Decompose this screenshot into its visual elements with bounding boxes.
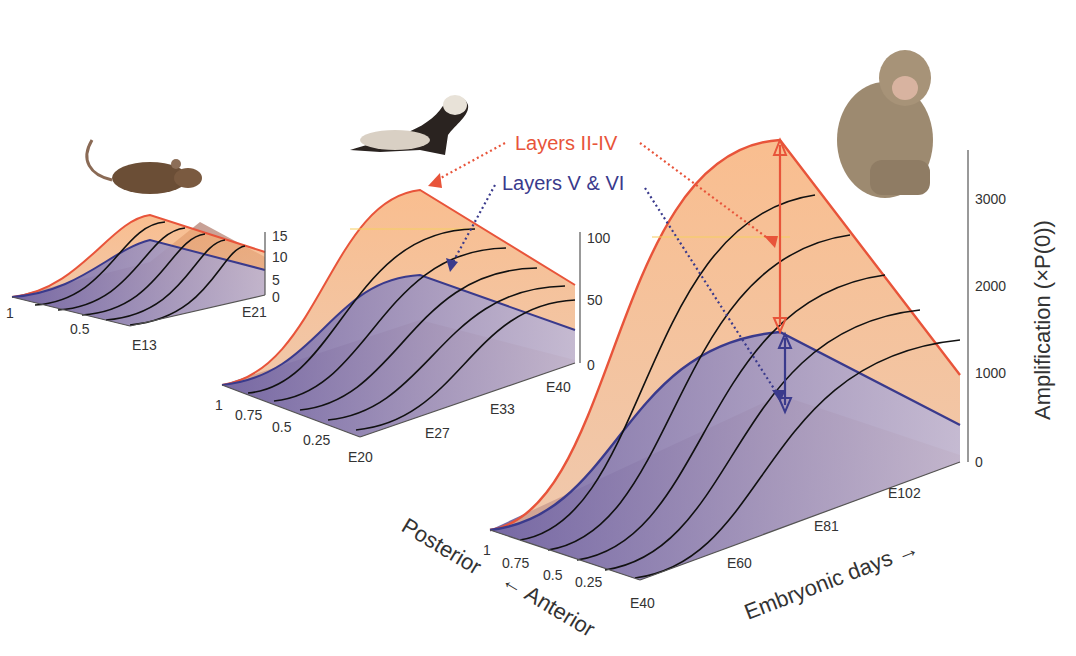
macaque-z-tick: 1000 [975, 365, 1006, 381]
annotation-layers-v-vi: Layers V & VI [502, 172, 624, 194]
ferret-z-tick: 0 [587, 357, 595, 373]
x-axis-label: Embryonic days → [741, 535, 922, 625]
macaque-ap-tick: 0.75 [502, 555, 529, 571]
y-axis-label: Amplification (×P(0)) [1030, 220, 1055, 420]
posterior-label: Posterior [397, 513, 485, 580]
ferret-x-tick: E33 [490, 401, 515, 417]
rat-z-tick: 10 [272, 249, 288, 265]
macaque-z-tick: 3000 [975, 191, 1006, 207]
macaque-x-tick: E81 [814, 518, 839, 534]
ferret-x-tick: E40 [546, 379, 571, 395]
macaque-icon [837, 50, 933, 198]
rat-ap-tick: 1 [6, 305, 14, 321]
rat-chart: 1 0.5 E13 E21 0 5 10 15 [6, 215, 288, 353]
annotation-layers-ii-iv: Layers II-IV [515, 132, 618, 154]
macaque-x-tick: E60 [727, 555, 752, 571]
ferret-ap-tick: 1 [215, 397, 223, 413]
rat-z-tick: 5 [272, 272, 280, 288]
macaque-x-tick: E102 [888, 485, 921, 501]
macaque-x-tick: E40 [630, 595, 655, 611]
rat-z-tick: 15 [272, 228, 288, 244]
ferret-icon [350, 95, 468, 155]
ferret-ap-tick: 0.25 [303, 432, 330, 448]
rat-ap-tick: 0.5 [70, 321, 90, 337]
ferret-x-tick: E20 [348, 449, 373, 465]
ferret-ap-tick: 0.75 [235, 407, 262, 423]
figure-canvas: 1 0.5 E13 E21 0 5 10 15 1 0.75 0.5 0.25 … [0, 0, 1076, 656]
ferret-x-tick: E27 [425, 425, 450, 441]
macaque-z-tick: 0 [975, 454, 983, 470]
ferret-z-tick: 50 [587, 292, 603, 308]
macaque-ap-tick: 0.5 [543, 567, 563, 583]
arrowhead [428, 173, 442, 188]
macaque-ap-tick: 1 [483, 542, 491, 558]
rat-icon [87, 140, 202, 194]
rat-x-tick: E13 [132, 337, 157, 353]
macaque-ap-tick: 0.25 [575, 574, 602, 590]
ferret-ap-tick: 0.5 [272, 419, 292, 435]
macaque-chart: 1 0.75 0.5 0.25 E40 E60 E81 E102 0 1000 … [483, 140, 1006, 611]
macaque-z-tick: 2000 [975, 278, 1006, 294]
rat-z-tick: 0 [272, 289, 280, 305]
rat-x-tick: E21 [242, 304, 267, 320]
ferret-z-tick: 100 [587, 230, 611, 246]
